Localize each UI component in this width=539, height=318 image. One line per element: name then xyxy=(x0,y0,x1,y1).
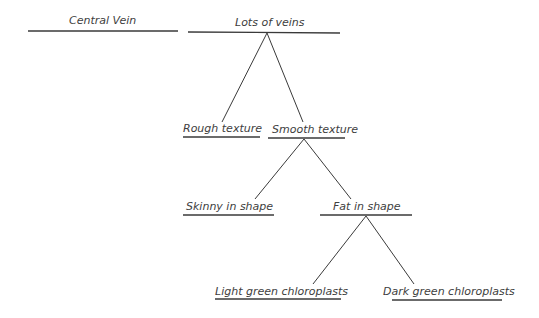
edge-lots-of-veins-rough-texture xyxy=(222,33,267,122)
edge-fat-in-shape-dark-green xyxy=(366,216,414,284)
diagram-canvas xyxy=(0,0,539,318)
underline-lots-of-veins xyxy=(188,32,340,33)
node-rough-texture: Rough texture xyxy=(183,122,262,135)
node-dark-green-chloroplasts: Dark green chloroplasts xyxy=(383,285,515,298)
edge-smooth-texture-fat-in-shape xyxy=(304,139,351,199)
edge-smooth-texture-skinny-in-shape xyxy=(255,139,304,199)
edge-lots-of-veins-smooth-texture xyxy=(267,33,303,122)
edge-fat-in-shape-light-green xyxy=(313,216,366,284)
node-fat-in-shape: Fat in shape xyxy=(333,200,401,213)
node-smooth-texture: Smooth texture xyxy=(272,123,358,136)
node-skinny-in-shape: Skinny in shape xyxy=(186,200,273,213)
node-light-green-chloroplasts: Light green chloroplasts xyxy=(215,285,348,298)
node-central-vein: Central Vein xyxy=(69,14,136,27)
node-lots-of-veins: Lots of veins xyxy=(235,16,305,29)
